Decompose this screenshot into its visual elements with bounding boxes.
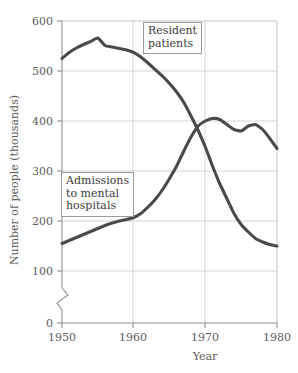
y-axis-title: Number of people (thousands) — [8, 95, 21, 265]
xtick-label-1980: 1980 — [263, 331, 291, 344]
ytick-label-200: 200 — [32, 215, 53, 228]
ytick-label-0: 0 — [46, 317, 53, 330]
chart-canvas: 600 500 400 300 200 100 0 1950 1960 1970… — [0, 0, 298, 373]
xtick-label-1960: 1960 — [119, 331, 147, 344]
callout-resident-line-1: Resident — [148, 25, 197, 38]
ytick-label-300: 300 — [32, 165, 53, 178]
gridlines-vertical — [133, 21, 205, 323]
gridlines-horizontal — [62, 71, 277, 271]
y-axis-break-zigzag — [57, 288, 68, 323]
callout-admissions-line-1: Admissions — [66, 175, 129, 188]
callout-admissions-line-3: hospitals — [66, 200, 129, 213]
ytick-label-100: 100 — [32, 265, 53, 278]
callout-resident-patients: Resident patients — [143, 22, 202, 54]
ytick-label-500: 500 — [32, 65, 53, 78]
callout-admissions: Admissions to mental hospitals — [61, 172, 134, 217]
callout-resident-line-2: patients — [148, 38, 197, 51]
ytick-label-600: 600 — [32, 15, 53, 28]
y-tick-labels: 600 500 400 300 200 100 0 — [32, 15, 53, 330]
x-tick-marks — [62, 323, 277, 328]
chart-figure: 600 500 400 300 200 100 0 1950 1960 1970… — [0, 0, 298, 373]
x-tick-labels: 1950 1960 1970 1980 — [48, 331, 291, 344]
xtick-label-1970: 1970 — [191, 331, 219, 344]
ytick-label-400: 400 — [32, 115, 53, 128]
xtick-label-1950: 1950 — [48, 331, 76, 344]
x-axis-title: Year — [192, 350, 218, 363]
